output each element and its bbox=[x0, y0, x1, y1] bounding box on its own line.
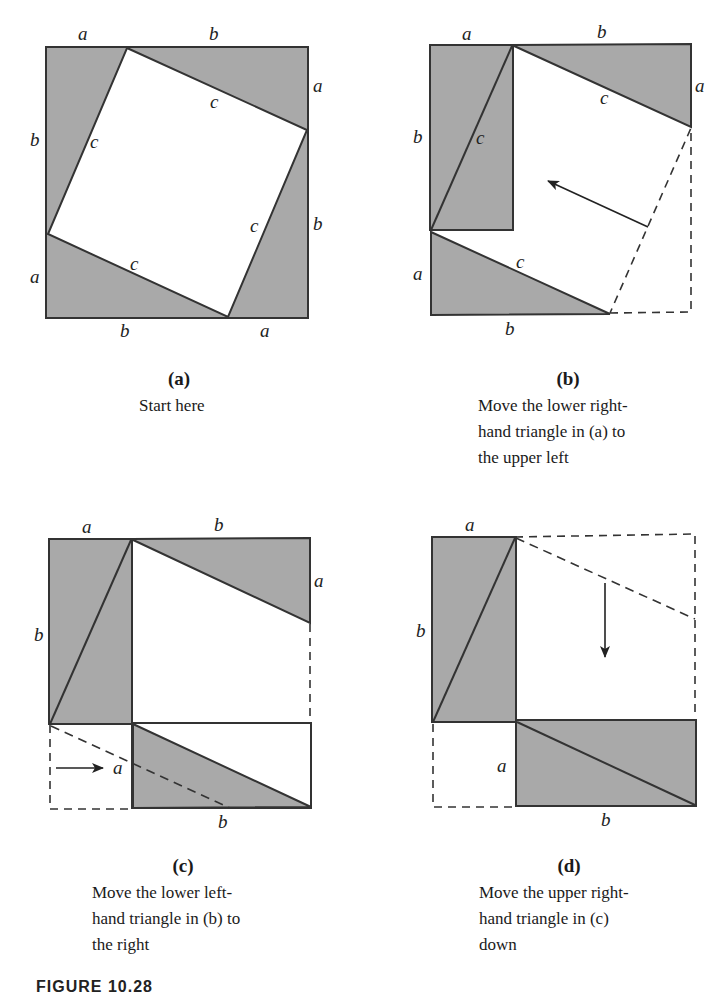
label-a: a bbox=[497, 755, 507, 776]
label-b: b bbox=[30, 129, 40, 150]
subfigure-label-a: (a) bbox=[149, 368, 209, 390]
label-a: a bbox=[113, 757, 123, 778]
caption-line: hand triangle in (c) bbox=[479, 906, 629, 932]
arrow-up-left-icon bbox=[548, 181, 648, 227]
label-a: a bbox=[314, 570, 324, 591]
label-a: a bbox=[465, 514, 475, 535]
label-b: b bbox=[214, 514, 224, 535]
label-c: c bbox=[516, 251, 525, 272]
panel-d-diagram: a b a b bbox=[416, 514, 696, 830]
panel-c-diagram: a b a b a b bbox=[34, 514, 324, 832]
label-a: a bbox=[260, 320, 270, 341]
label-b: b bbox=[313, 213, 323, 234]
triangle-upper-right bbox=[131, 538, 310, 623]
caption-a: Start here bbox=[139, 393, 205, 419]
label-b: b bbox=[505, 318, 515, 339]
label-c: c bbox=[250, 215, 259, 236]
label-c: c bbox=[210, 91, 219, 112]
label-b: b bbox=[120, 320, 130, 341]
label-b: b bbox=[597, 21, 607, 42]
label-c: c bbox=[130, 253, 139, 274]
caption-line: hand triangle in (b) to bbox=[92, 906, 240, 932]
caption-line: the upper left bbox=[478, 445, 628, 471]
caption-b: Move the lower right- hand triangle in (… bbox=[478, 393, 628, 471]
triangle-lower-left bbox=[431, 232, 610, 315]
subfigure-label-c: (c) bbox=[153, 855, 213, 877]
figure-number-label: FIGURE 10.28 bbox=[36, 978, 153, 996]
label-a: a bbox=[462, 23, 472, 44]
label-a: a bbox=[30, 266, 40, 287]
subfigure-label-b: (b) bbox=[538, 368, 598, 390]
label-b: b bbox=[413, 126, 423, 147]
label-b: b bbox=[416, 620, 426, 641]
label-b: b bbox=[34, 624, 44, 645]
label-b: b bbox=[209, 23, 219, 44]
caption-d: Move the upper right- hand triangle in (… bbox=[479, 880, 629, 958]
label-a: a bbox=[78, 23, 88, 44]
label-b: b bbox=[218, 811, 228, 832]
label-c: c bbox=[600, 87, 609, 108]
caption-line: Move the lower right- bbox=[478, 393, 628, 419]
caption-line: hand triangle in (a) to bbox=[478, 419, 628, 445]
dashed-moved-triangle bbox=[610, 128, 691, 313]
caption-c: Move the lower left- hand triangle in (b… bbox=[92, 880, 240, 958]
triangle-upper-right bbox=[512, 44, 691, 127]
caption-line: Move the upper right- bbox=[479, 880, 629, 906]
caption-line: Move the lower left- bbox=[92, 880, 240, 906]
panel-b-diagram: a b a b a b c c c bbox=[413, 21, 705, 339]
panel-a-diagram: a b a b b a b a c c c c bbox=[30, 23, 323, 341]
caption-line: the right bbox=[92, 932, 240, 958]
label-a: a bbox=[313, 75, 323, 96]
label-b: b bbox=[601, 809, 611, 830]
label-a: a bbox=[413, 263, 423, 284]
caption-line: down bbox=[479, 932, 629, 958]
subfigure-label-d: (d) bbox=[539, 855, 599, 877]
label-a: a bbox=[695, 75, 705, 96]
label-c: c bbox=[476, 127, 485, 148]
caption-line: Start here bbox=[139, 393, 205, 419]
label-a: a bbox=[82, 516, 92, 537]
label-c: c bbox=[90, 131, 99, 152]
